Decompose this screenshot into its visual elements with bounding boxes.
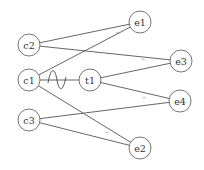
edge-t1-e4	[90, 80, 180, 101]
node-label: c3	[23, 115, 34, 126]
node-label: e3	[175, 56, 187, 67]
caret-mark-c2-e3: ^	[140, 57, 145, 64]
nodes-layer: c2c1c3t1e1e3e4e2	[18, 11, 192, 159]
node-c3: c3	[18, 109, 40, 131]
node-t1: t1	[79, 69, 101, 91]
bipartite-graph-diagram: ^^^^ c2c1c3t1e1e3e4e2	[0, 0, 204, 170]
edge-c3-e4	[29, 101, 180, 120]
caret-mark-t1-e4: ^	[141, 95, 146, 102]
node-c2: c2	[18, 34, 40, 56]
edge-c1-e2	[29, 80, 140, 148]
node-label: c2	[23, 40, 34, 51]
edge-c2-e1	[29, 22, 140, 45]
node-label: e1	[134, 17, 146, 28]
node-label: t1	[85, 75, 95, 86]
caret-mark-c2-e1: ^	[115, 30, 120, 37]
node-e3: e3	[170, 50, 192, 72]
edge-t1-e3	[90, 61, 181, 80]
edge-c2-e3	[29, 45, 181, 61]
node-e4: e4	[169, 90, 191, 112]
node-e1: e1	[129, 11, 151, 33]
edge-c3-e2	[29, 120, 140, 148]
node-c1: c1	[18, 69, 40, 91]
caret-mark-c1-e2: ^	[104, 130, 109, 137]
node-label: c1	[23, 75, 34, 86]
node-label: e2	[134, 143, 146, 154]
node-label: e4	[174, 96, 186, 107]
node-e2: e2	[129, 137, 151, 159]
